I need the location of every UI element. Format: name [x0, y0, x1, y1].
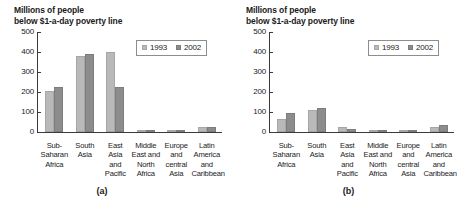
- bar-2002-3: [146, 130, 155, 132]
- chart-a-title: Millions of people below $1-a-day povert…: [14, 5, 122, 26]
- y-tick-mark: [270, 132, 273, 133]
- bar-2002-2: [347, 129, 356, 132]
- x-axis-category-label: Sub- Saharan Africa: [271, 141, 302, 169]
- legend-label-2002: 2002: [184, 43, 201, 52]
- chart-b-legend: 1993 2002: [368, 40, 439, 56]
- x-axis-category-label: Latin America and Caribbean: [192, 141, 223, 178]
- bar-1993-1: [308, 110, 317, 132]
- y-tick-label: 200: [253, 88, 266, 96]
- chart-b-y-axis: 0100200300400500: [246, 32, 268, 132]
- x-axis-category-label: South Asia: [302, 141, 333, 160]
- y-tick-label: 300: [21, 68, 34, 76]
- x-axis-category-label: South Asia: [70, 141, 101, 160]
- bar-1993-3: [369, 130, 378, 132]
- x-axis-category-label: Europe and central Asia: [393, 141, 424, 178]
- y-tick-mark: [270, 32, 273, 33]
- bar-2002-3: [378, 130, 387, 132]
- bar-2002-0: [54, 87, 63, 132]
- y-tick-label: 100: [21, 108, 34, 116]
- y-tick-mark: [270, 72, 273, 73]
- y-tick-label: 100: [253, 108, 266, 116]
- bar-1993-2: [338, 127, 347, 132]
- y-tick-label: 200: [21, 88, 34, 96]
- y-tick-label: 500: [253, 28, 266, 36]
- y-tick-label: 400: [253, 48, 266, 56]
- x-axis-category-label: East Asia and Pacific: [332, 141, 363, 178]
- y-tick-mark: [270, 112, 273, 113]
- bar-2002-5: [439, 125, 448, 132]
- y-tick-label: 300: [253, 68, 266, 76]
- chart-panel-a: Millions of people below $1-a-day povert…: [0, 0, 232, 207]
- y-tick-mark: [270, 52, 273, 53]
- bar-2002-4: [176, 130, 185, 132]
- legend-label-2002: 2002: [416, 43, 433, 52]
- figure-container: Millions of people below $1-a-day povert…: [0, 0, 465, 207]
- y-tick-mark: [38, 92, 41, 93]
- y-tick-label: 0: [30, 128, 34, 136]
- chart-a-y-axis-line: [37, 32, 38, 132]
- x-axis-category-label: Europe and central Asia: [161, 141, 192, 178]
- bar-2002-5: [207, 127, 216, 132]
- bar-1993-0: [45, 91, 54, 132]
- legend-entry-2002: 2002: [408, 43, 433, 52]
- bar-1993-3: [137, 130, 146, 132]
- y-tick-mark: [38, 132, 41, 133]
- legend-swatch-1993-icon: [374, 45, 379, 50]
- chart-a-x-axis-line: [37, 132, 222, 133]
- legend-swatch-2002-icon: [176, 45, 181, 50]
- bar-1993-0: [277, 119, 286, 132]
- legend-label-1993: 1993: [150, 43, 167, 52]
- x-axis-category-label: Latin America and Caribbean: [424, 141, 455, 178]
- x-axis-category-label: Middle East and North Africa: [131, 141, 162, 178]
- bar-2002-2: [115, 87, 124, 132]
- chart-b-x-labels: Sub- Saharan AfricaSouth AsiaEast Asia a…: [271, 141, 454, 189]
- y-tick-label: 500: [21, 28, 34, 36]
- y-tick-mark: [38, 52, 41, 53]
- bar-1993-4: [399, 130, 408, 132]
- y-tick-label: 400: [21, 48, 34, 56]
- chart-b-y-axis-line: [269, 32, 270, 132]
- legend-entry-1993: 1993: [374, 43, 399, 52]
- chart-a-x-labels: Sub- Saharan AfricaSouth AsiaEast Asia a…: [39, 141, 222, 189]
- bar-2002-1: [317, 108, 326, 132]
- bar-1993-5: [430, 127, 439, 132]
- bar-2002-1: [85, 54, 94, 132]
- chart-a-legend: 1993 2002: [136, 40, 207, 56]
- legend-swatch-2002-icon: [408, 45, 413, 50]
- x-axis-category-label: Sub- Saharan Africa: [39, 141, 70, 169]
- bar-1993-4: [167, 130, 176, 132]
- bar-1993-1: [76, 56, 85, 132]
- y-tick-mark: [270, 92, 273, 93]
- x-axis-category-label: Middle East and North Africa: [363, 141, 394, 178]
- chart-a-caption: (a): [0, 186, 218, 196]
- chart-b-caption: (b): [232, 186, 465, 196]
- y-tick-mark: [38, 72, 41, 73]
- chart-b-x-axis-line: [269, 132, 454, 133]
- y-tick-label: 0: [262, 128, 266, 136]
- y-tick-mark: [38, 32, 41, 33]
- legend-swatch-1993-icon: [142, 45, 147, 50]
- legend-label-1993: 1993: [382, 43, 399, 52]
- chart-a-y-axis: 0100200300400500: [14, 32, 36, 132]
- bar-2002-0: [286, 113, 295, 132]
- bar-1993-2: [106, 52, 115, 132]
- bar-1993-5: [198, 127, 207, 132]
- y-tick-mark: [38, 112, 41, 113]
- x-axis-category-label: East Asia and Pacific: [100, 141, 131, 178]
- chart-panel-b: Millions of people below $1-a-day povert…: [232, 0, 465, 207]
- legend-entry-1993: 1993: [142, 43, 167, 52]
- legend-entry-2002: 2002: [176, 43, 201, 52]
- bar-2002-4: [408, 130, 417, 132]
- chart-b-title: Millions of people below $1-a-day povert…: [246, 5, 354, 26]
